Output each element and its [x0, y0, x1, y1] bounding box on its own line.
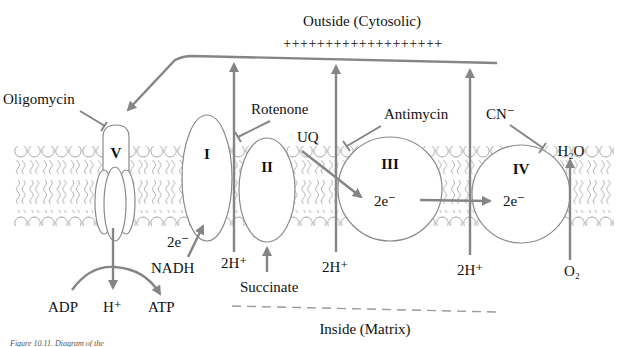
complex-II[interactable]: II: [239, 138, 295, 242]
succinate-label: Succinate: [240, 279, 299, 295]
water-label: H₂O: [558, 143, 585, 159]
complex-III-electrons: 2e⁻: [374, 193, 396, 209]
complex-I[interactable]: I: [182, 115, 232, 241]
III-to-IV-electron-arrow: [420, 200, 490, 201]
electron-transport-chain-diagram: V I II III IV Outside (Cytosolic) + + + …: [0, 0, 642, 347]
complex-I-label: I: [204, 146, 210, 162]
complex-IV-electrons: 2e⁻: [503, 193, 525, 209]
matrix-boundary-dashed: [232, 306, 497, 312]
adp-to-atp-arrow: [72, 267, 160, 294]
atp-label: ATP: [148, 299, 175, 315]
adp-label: ADP: [48, 299, 78, 315]
complex-V[interactable]: V: [95, 125, 135, 241]
complex-V-label: V: [111, 145, 122, 161]
oxygen-label: O₂: [564, 263, 580, 279]
complex-III[interactable]: III: [338, 137, 442, 241]
proton-label: H⁺: [103, 299, 122, 315]
complex-IV-label: IV: [513, 161, 530, 177]
complex-I-protons: 2H⁺: [221, 255, 247, 271]
complex-II-label: II: [261, 159, 273, 175]
positive-charge-marks: + + + + + + + + + + + + + + + + + + +: [283, 36, 442, 51]
outside-cytosolic-label: Outside (Cytosolic): [303, 13, 421, 30]
ubiquinone-label: UQ: [297, 129, 319, 145]
cyanide-label: CN⁻: [486, 106, 515, 122]
complex-I-electrons: 2e⁻: [167, 234, 189, 250]
complex-III-label: III: [381, 156, 399, 172]
rotenone-label: Rotenone: [251, 101, 309, 117]
oligomycin-inhibition: [80, 111, 107, 131]
nadh-label: NADH: [151, 260, 194, 276]
complex-IV-protons: 2H⁺: [457, 262, 483, 278]
inside-matrix-label: Inside (Matrix): [319, 321, 410, 338]
complex-III-protons: 2H⁺: [322, 259, 348, 275]
antimycin-label: Antimycin: [384, 106, 449, 122]
proton-return-arrow: [128, 56, 497, 110]
oligomycin-label: Oligomycin: [3, 91, 75, 107]
figure-caption: Figure 10.11. Diagram of the: [9, 339, 104, 347]
